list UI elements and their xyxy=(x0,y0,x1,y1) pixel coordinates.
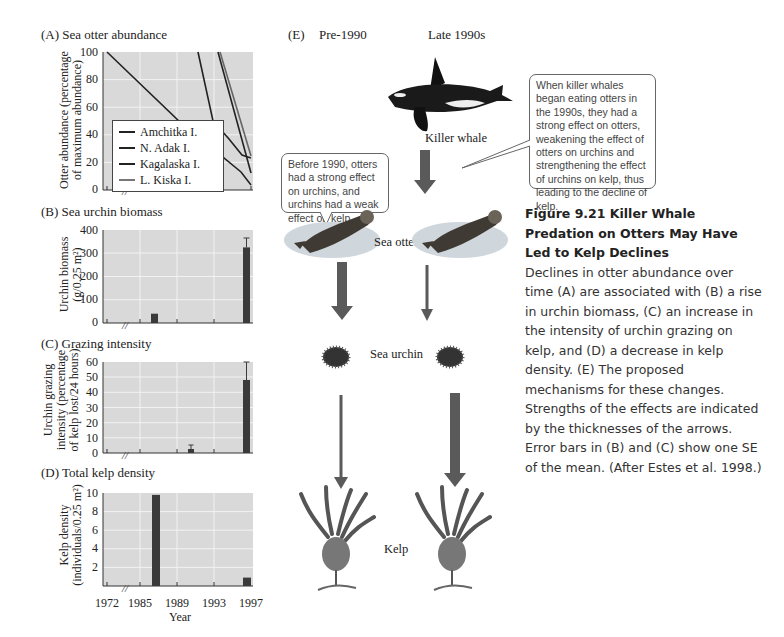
ytick: 80 xyxy=(72,72,98,87)
caption-title: Figure 9.21 Killer Whale Predation on Ot… xyxy=(525,204,765,263)
ytick: 0 xyxy=(72,315,98,330)
figure-caption: Figure 9.21 Killer Whale Predation on Ot… xyxy=(525,204,765,477)
svg-text://: // xyxy=(121,582,129,593)
ytick: 20 xyxy=(72,155,98,170)
panel-d-xlabel: Year xyxy=(160,610,200,625)
ytick: 100 xyxy=(72,45,98,60)
sea-urchin-icon xyxy=(432,340,468,370)
panel-d-title: (D) Total kelp density xyxy=(41,465,155,481)
svg-text://: // xyxy=(121,449,129,461)
sea-otter-icon xyxy=(282,205,382,267)
ytick: 8 xyxy=(72,504,98,519)
label-sea-urchin: Sea urchin xyxy=(370,347,423,362)
ytick: 50 xyxy=(72,370,98,385)
ytick: 400 xyxy=(72,223,98,238)
arrow-otter-to-urchin-weak xyxy=(412,265,442,325)
ytick: 6 xyxy=(72,523,98,538)
legend-item-kagalaska: Kagalaska I. xyxy=(119,156,217,172)
panel-b-plot: // xyxy=(100,226,256,330)
legend-label: L. Kiska I. xyxy=(140,173,191,188)
column-late-1990s: Late 1990s xyxy=(428,27,485,43)
legend-swatch xyxy=(119,163,135,165)
ytick: 60 xyxy=(72,355,98,370)
legend-label: Kagalaska I. xyxy=(140,157,200,172)
ytick: 200 xyxy=(72,269,98,284)
legend-swatch xyxy=(119,131,135,133)
ytick: 0 xyxy=(72,182,98,197)
ytick: 4 xyxy=(72,541,98,556)
ytick: 40 xyxy=(72,127,98,142)
legend-item-l-kiska: L. Kiska I. xyxy=(119,172,217,188)
legend-item-n-adak: N. Adak I. xyxy=(119,140,217,156)
bubble-late-1990s: When killer whales began eating otters i… xyxy=(529,74,656,189)
ytick: 10 xyxy=(72,486,98,501)
bubble-pre-1990: Before 1990, otters had a strong effect … xyxy=(281,153,389,213)
ytick: 40 xyxy=(72,385,98,400)
legend-label: N. Adak I. xyxy=(140,141,190,156)
legend-label: Amchitka I. xyxy=(140,125,197,140)
bubble-late-1990s-tail xyxy=(460,140,532,172)
panel-b-title: (B) Sea urchin biomass xyxy=(41,204,163,220)
sea-urchin-icon xyxy=(318,340,354,370)
ytick: 100 xyxy=(72,292,98,307)
ytick: 300 xyxy=(72,246,98,261)
svg-text://: // xyxy=(121,319,129,330)
arrow-whale-to-otter-strong xyxy=(410,150,440,195)
ytick: 10 xyxy=(72,431,98,446)
ytick: 60 xyxy=(72,100,98,115)
label-kelp: Kelp xyxy=(384,542,408,557)
panel-d-plot: // xyxy=(100,489,256,593)
legend-swatch xyxy=(119,179,135,181)
arrow-urchin-to-kelp-weak xyxy=(326,395,356,495)
panel-a-title: (A) Sea otter abundance xyxy=(41,27,167,43)
xtick: 1989 xyxy=(160,596,194,611)
xtick: 1993 xyxy=(197,596,231,611)
arrow-otter-to-urchin-strong xyxy=(327,262,357,322)
ytick: 0 xyxy=(72,446,98,461)
caption-body: Declines in otter abundance over time (A… xyxy=(525,265,762,475)
legend-swatch xyxy=(119,147,135,149)
kelp-icon xyxy=(296,482,376,597)
ytick: 20 xyxy=(72,416,98,431)
ytick: 30 xyxy=(72,401,98,416)
ytick: 2 xyxy=(72,560,98,575)
arrow-urchin-to-kelp-strong xyxy=(440,393,470,493)
legend-item-amchitka: Amchitka I. xyxy=(119,124,217,140)
xtick: 1985 xyxy=(123,596,157,611)
panel-e-label: (E) xyxy=(288,27,305,43)
panel-a-legend: Amchitka I. N. Adak I. Kagalaska I. L. K… xyxy=(112,120,224,192)
column-pre-1990: Pre-1990 xyxy=(319,27,367,43)
xtick: 1997 xyxy=(234,596,268,611)
xtick: 1972 xyxy=(90,596,124,611)
kelp-icon xyxy=(412,482,492,597)
panel-c-plot: // xyxy=(100,358,256,462)
killer-whale-icon xyxy=(385,55,520,135)
sea-otter-icon xyxy=(410,205,510,267)
